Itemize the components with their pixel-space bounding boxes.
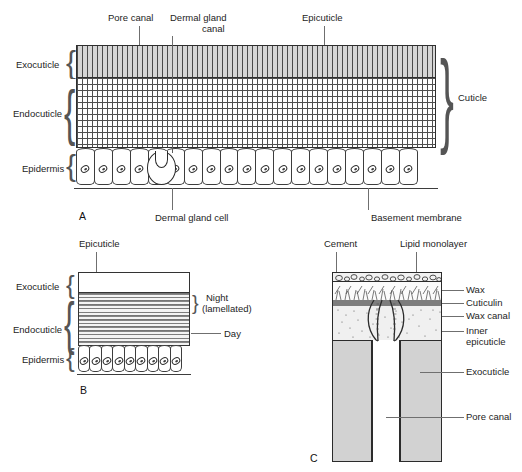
epidermis-cell (237, 153, 256, 185)
cell-nucleus-icon (124, 356, 135, 367)
label-b-epicuticle: Epicuticle (79, 238, 120, 249)
brace-epidermis: { (66, 150, 76, 182)
panel-b-letter: B (80, 384, 87, 396)
label-c-inner-epicuticle-line1: Inner (466, 325, 488, 336)
cell-nucleus-icon (205, 164, 216, 175)
panel-a-letter: A (79, 210, 86, 222)
epidermis-cell (135, 350, 147, 372)
b-basement-line (77, 374, 191, 375)
label-dermal-gland-canal-line2: canal (202, 23, 225, 34)
brace-exocuticle: { (66, 45, 76, 79)
epidermis-cell (112, 153, 131, 185)
leader-b-epicuticle (96, 252, 97, 272)
b-epidermis-cell-row (78, 350, 190, 372)
label-b-exocuticle: Exocuticle (16, 281, 59, 292)
cell-nucleus-icon (331, 164, 342, 175)
cell-nucleus-icon (101, 356, 112, 367)
epidermis-cell (220, 153, 239, 185)
wax-canal-icon (332, 296, 442, 346)
cell-nucleus-icon (116, 164, 127, 175)
label-c-lipid-monolayer: Lipid monolayer (400, 238, 467, 249)
c-exocuticle-right (400, 340, 442, 462)
label-c-pore-canal: Pore canal (466, 411, 511, 422)
c-pore-canal (372, 340, 400, 462)
label-c-cement: Cement (324, 238, 357, 249)
label-c-wax: Wax (466, 284, 485, 295)
label-cuticle: Cuticle (458, 92, 487, 103)
leader-c-cement (336, 252, 337, 272)
exocuticle-layer (76, 45, 436, 78)
epidermis-cell (184, 153, 203, 185)
epidermis-cell (309, 153, 328, 185)
b-endocuticle-layer (78, 293, 190, 346)
leader-pore-canal (139, 26, 140, 45)
epidermis-cell (202, 153, 221, 185)
label-epicuticle: Epicuticle (302, 12, 343, 23)
cell-nucleus-icon (367, 164, 378, 175)
label-b-endocuticle: Endocuticle (13, 324, 62, 335)
cell-nucleus-icon (90, 356, 101, 367)
label-dermal-gland-canal-line1: Dermal gland (170, 12, 227, 23)
epidermis-cell (255, 153, 274, 185)
epidermis-cell (381, 153, 400, 185)
leader-c-exocuticle (420, 372, 464, 373)
panel-b: Epicuticle Exocuticle { Endocuticle { Ep… (0, 230, 300, 390)
brace-b-night: } (192, 292, 199, 314)
leader-basement-membrane (368, 188, 369, 210)
epidermis-cell (273, 153, 292, 185)
c-exocuticle-left (332, 340, 372, 462)
label-endocuticle: Endocuticle (13, 108, 62, 119)
cell-nucleus-icon (349, 164, 360, 175)
epidermis-cell (170, 350, 182, 372)
cell-nucleus-icon (113, 356, 124, 367)
label-epidermis: Epidermis (22, 163, 64, 174)
brace-cuticle: } (440, 44, 454, 150)
cell-nucleus-icon (295, 164, 306, 175)
leader-dermal-gland-cell (172, 188, 173, 210)
epidermis-cell (399, 153, 418, 185)
c-cement-layer (332, 272, 442, 282)
leader-b-day (191, 333, 221, 334)
leader-c-pore-canal (386, 417, 464, 418)
leader-c-inner-epicuticle (442, 331, 464, 332)
basement-membrane-line (74, 188, 438, 189)
label-exocuticle: Exocuticle (16, 59, 59, 70)
leader-c-cuticulin (442, 303, 464, 304)
cell-nucleus-icon (80, 164, 91, 175)
epidermis-cell (94, 153, 113, 185)
epidermis-cell (363, 153, 382, 185)
label-dermal-gland-cell: Dermal gland cell (155, 212, 228, 223)
epidermis-cell (327, 153, 346, 185)
cell-nucleus-icon (159, 356, 170, 367)
leader-c-wax (442, 290, 464, 291)
label-b-night-line1: Night (206, 292, 228, 303)
cement-texture-icon (333, 273, 442, 282)
cell-nucleus-icon (259, 164, 270, 175)
cell-nucleus-icon (147, 356, 158, 367)
endocuticle-layer (76, 78, 436, 148)
label-b-day: Day (224, 328, 241, 339)
cell-nucleus-icon (223, 164, 234, 175)
cell-nucleus-icon (79, 356, 90, 367)
panel-c: Cement Lipid monolayer (300, 230, 522, 472)
cell-nucleus-icon (313, 164, 324, 175)
label-pore-canal: Pore canal (108, 12, 153, 23)
brace-endocuticle: { (64, 80, 75, 144)
leader-c-wax-canal (442, 316, 464, 317)
epidermis-cell (291, 153, 310, 185)
label-c-cuticulin: Cuticulin (466, 297, 502, 308)
leader-dermal-gland-canal (172, 36, 173, 45)
epidermis-cell-row (76, 153, 436, 185)
cell-nucleus-icon (187, 164, 198, 175)
dermal-gland-canal-line (172, 45, 173, 153)
label-b-night-line2: (lamellated) (202, 303, 252, 314)
cell-nucleus-icon (241, 164, 252, 175)
epidermis-cell (76, 153, 95, 185)
cell-nucleus-icon (385, 164, 396, 175)
cell-nucleus-icon (136, 356, 147, 367)
cell-nucleus-icon (403, 164, 414, 175)
b-exocuticle-layer (78, 272, 190, 293)
cell-nucleus-icon (98, 164, 109, 175)
label-basement-membrane: Basement membrane (371, 212, 462, 223)
cell-nucleus-icon (277, 164, 288, 175)
